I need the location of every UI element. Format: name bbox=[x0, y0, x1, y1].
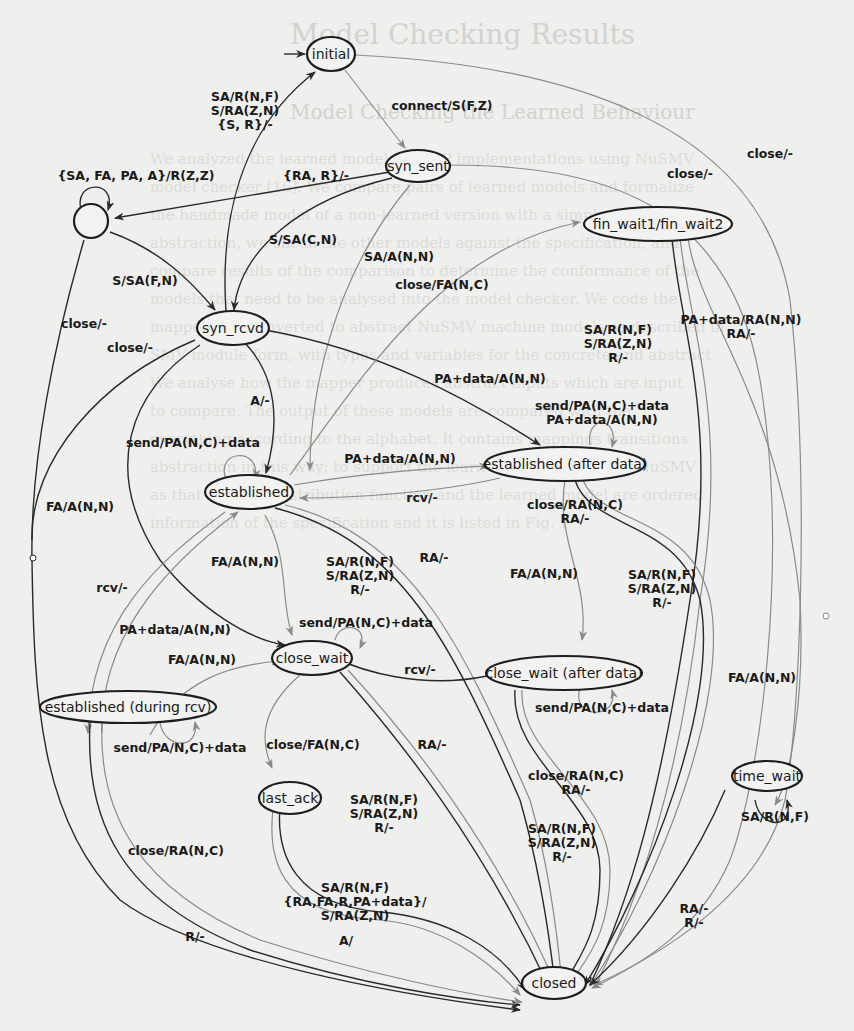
edge-label: S/RA(Z,N) bbox=[326, 568, 395, 583]
edge-label: SA/R(N,F) bbox=[628, 567, 696, 582]
edge-label: S/RA(Z,N) bbox=[628, 581, 697, 596]
edge-label: FA/A(N,N) bbox=[728, 670, 796, 685]
state-close-wait: close_wait bbox=[272, 641, 352, 675]
edge-label: close/RA(N,C) bbox=[528, 768, 624, 783]
edge-close-wait-closed bbox=[340, 672, 548, 985]
edge-label: SA/R(N,F) bbox=[326, 554, 394, 569]
svg-text:syn_sent: syn_sent bbox=[387, 158, 449, 174]
state-syn-sent: syn_sent bbox=[386, 150, 450, 182]
edge-established-rcv-closed-2 bbox=[102, 722, 522, 1002]
edge-label: rcv/- bbox=[406, 490, 437, 505]
edge-label: RA/- bbox=[419, 550, 448, 565]
state-last-ack: last_ack bbox=[259, 782, 321, 814]
edge-established-established-after bbox=[294, 466, 488, 485]
edge-label: close/- bbox=[747, 146, 793, 161]
state-syn-rcvd: syn_rcvd bbox=[197, 311, 269, 345]
state-fin-wait: fin_wait1/fin_wait2 bbox=[584, 207, 732, 241]
edge-label: A/ bbox=[339, 933, 354, 948]
edge-label: R/- bbox=[185, 929, 204, 944]
state-established: established bbox=[205, 475, 293, 509]
edge-label: send/PA(N,C)+data bbox=[535, 700, 669, 715]
edge-label: SA/R(N,F) bbox=[584, 322, 652, 337]
svg-text:established (during rcv): established (during rcv) bbox=[45, 699, 212, 715]
state-closed: closed bbox=[522, 967, 586, 999]
edge-label: PA+data/A(N,N) bbox=[434, 371, 545, 386]
edge-label: PA+data/A(N,N) bbox=[119, 622, 230, 637]
edge-label: rcv/- bbox=[96, 580, 127, 595]
edge-syn-rcvd-established-after bbox=[265, 330, 540, 445]
svg-text:fin_wait1/fin_wait2: fin_wait1/fin_wait2 bbox=[593, 216, 724, 232]
svg-text:time_wait: time_wait bbox=[733, 768, 802, 784]
edge-label: R/- bbox=[684, 915, 703, 930]
edge-label: RA/- bbox=[561, 782, 590, 797]
edge-label: close/RA(N,C) bbox=[527, 497, 623, 512]
state-sink bbox=[74, 204, 108, 238]
edge-label: close/FA(N,C) bbox=[266, 737, 359, 752]
state-initial: initial bbox=[307, 37, 355, 71]
edge-label: send/PA(N,C)+data bbox=[299, 615, 433, 630]
svg-text:established (after data): established (after data) bbox=[483, 456, 648, 472]
edge-label: SA/R(N,F) bbox=[741, 809, 809, 824]
edge-label: PA+data/A(N,N) bbox=[546, 412, 657, 427]
edge-label: S/RA(Z,N) bbox=[211, 103, 280, 118]
state-time-wait: time_wait bbox=[732, 761, 802, 791]
svg-text:syn_rcvd: syn_rcvd bbox=[202, 320, 264, 336]
edge-label: S/RA(Z,N) bbox=[321, 908, 390, 923]
svg-text:closed: closed bbox=[532, 975, 577, 991]
edge-label: close/- bbox=[61, 316, 107, 331]
edge-label: {SA, FA, PA, A}/R(Z,Z) bbox=[57, 168, 214, 183]
edge-label: FA/A(N,N) bbox=[168, 652, 236, 667]
edge-label: close/- bbox=[107, 340, 153, 355]
branch-point bbox=[823, 613, 829, 619]
edge-label: R/- bbox=[552, 849, 571, 864]
edge-label: send/PA/N,C)+data bbox=[114, 740, 247, 755]
edge-label: {S, R}/- bbox=[217, 117, 272, 132]
svg-text:last_ack: last_ack bbox=[262, 790, 320, 806]
edge-label: send/PA(N,C)+data bbox=[126, 435, 260, 450]
edge-label: SA/A(N,N) bbox=[364, 249, 434, 264]
edge-label: R/- bbox=[374, 820, 393, 835]
svg-text:initial: initial bbox=[312, 46, 351, 62]
edge-label: A/- bbox=[250, 393, 269, 408]
edge-label: S/SA(C,N) bbox=[269, 232, 337, 247]
edge-label: connect/S(F,Z) bbox=[392, 98, 493, 113]
edge-label: RA/- bbox=[726, 326, 755, 341]
edge-established-fin-wait bbox=[290, 222, 580, 475]
edge-label: S/RA(Z,N) bbox=[528, 835, 597, 850]
edge-label: R/- bbox=[350, 582, 369, 597]
edge-label: close/FA(N,C) bbox=[395, 277, 488, 292]
branch-point bbox=[30, 555, 36, 561]
edge-label: {RA,FA,R,PA+data}/ bbox=[284, 894, 427, 909]
edge-label: rcv/- bbox=[404, 662, 435, 677]
svg-text:close_wait (after data): close_wait (after data) bbox=[486, 665, 643, 681]
edge-close-wait-last-ack bbox=[265, 675, 300, 768]
edge-label: SA/R(N,F) bbox=[350, 792, 418, 807]
edge-syn-rcvd-established bbox=[245, 343, 274, 473]
edge-label: SA/R(N,F) bbox=[321, 880, 389, 895]
state-close-wait-after-data: close_wait (after data) bbox=[486, 656, 643, 690]
edge-label: FA/A(N,N) bbox=[510, 566, 578, 581]
state-established-during-rcv: established (during rcv) bbox=[40, 691, 216, 723]
edge-established-rcv-closed bbox=[90, 722, 520, 1005]
svg-text:close_wait: close_wait bbox=[276, 650, 349, 666]
edges bbox=[30, 54, 829, 1010]
edge-label: SA/R(N,F) bbox=[528, 821, 596, 836]
edge-label: FA/A(N,N) bbox=[211, 554, 279, 569]
edge-label: S/RA(Z,N) bbox=[350, 806, 419, 821]
edge-label: close/- bbox=[667, 166, 713, 181]
edge-label: send/PA(N,C)+data bbox=[535, 398, 669, 413]
edge-established-close-wait bbox=[265, 515, 292, 635]
edge-label: RA/- bbox=[417, 737, 446, 752]
edge-label: RA/- bbox=[560, 511, 589, 526]
edge-label: S/SA(F,N) bbox=[112, 273, 177, 288]
edge-sink-closed bbox=[32, 240, 520, 1010]
svg-text:established: established bbox=[209, 484, 289, 500]
state-established-after-data: established (after data) bbox=[483, 447, 648, 481]
edge-label: S/RA(Z,N) bbox=[584, 336, 653, 351]
edge-label: FA/A(N,N) bbox=[46, 499, 114, 514]
edge-label: R/- bbox=[652, 595, 671, 610]
state-diagram: initial syn_sent syn_rcvd fin_wait1/fin_… bbox=[0, 0, 854, 1031]
edge-label: RA/- bbox=[679, 901, 708, 916]
edge-label: R/- bbox=[608, 350, 627, 365]
edge-label: PA+data/RA(N,N) bbox=[681, 312, 802, 327]
